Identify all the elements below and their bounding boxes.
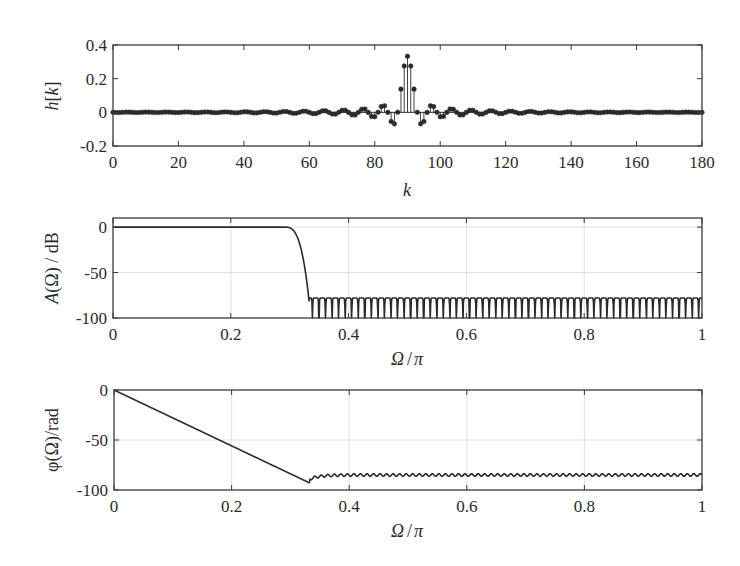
x-tick-label: 0.8 xyxy=(574,325,595,344)
x-tick-label: 0.2 xyxy=(220,325,241,344)
x-tick-label: 0 xyxy=(109,153,118,172)
x-tick-label: 0.6 xyxy=(456,497,477,516)
x-tick-label: 0.4 xyxy=(339,497,361,516)
x-tick-label: 0.2 xyxy=(221,497,242,516)
x-tick-label: 1 xyxy=(698,497,707,516)
y-axis-label: h[k] xyxy=(42,82,62,111)
y-tick-labels: 0-50-100 xyxy=(76,218,107,328)
y-tick-label: 0 xyxy=(100,381,109,400)
phase-response-panel: 00.20.40.60.81 0-50-100 φ(Ω)/rad Ω/π xyxy=(42,381,706,541)
x-tick-label: 120 xyxy=(493,153,519,172)
stem-marker xyxy=(412,87,417,92)
magnitude-response-panel: 00.20.40.60.81 0-50-100 A(Ω) / dB Ω/π xyxy=(42,218,706,369)
stem-marker xyxy=(405,54,410,59)
x-tick-label: 0 xyxy=(109,325,118,344)
x-axis-label: k xyxy=(403,180,412,200)
x-tick-label: 100 xyxy=(427,153,453,172)
y-axis-label: φ(Ω)/rad xyxy=(42,408,63,472)
y-tick-label: -50 xyxy=(84,264,107,283)
x-tick-label: 20 xyxy=(170,153,187,172)
stem-marker xyxy=(422,119,427,124)
stem-marker xyxy=(392,122,397,127)
stem-marker xyxy=(382,104,387,109)
x-tick-label: 0.6 xyxy=(456,325,477,344)
stem-marker xyxy=(408,64,413,69)
x-tick-label: 1 xyxy=(698,325,707,344)
x-tick-label: 80 xyxy=(366,153,383,172)
x-tick-label: 140 xyxy=(558,153,584,172)
x-axis-label: Ω/π xyxy=(391,521,424,541)
y-axis-label: A(Ω) / dB xyxy=(42,232,63,304)
stem-series xyxy=(111,54,705,126)
y-tick-labels: 0-50-100 xyxy=(77,381,108,500)
x-tick-label: 60 xyxy=(301,153,318,172)
x-axis-label: Ω/π xyxy=(391,349,424,369)
stem-marker xyxy=(431,104,436,109)
x-tick-labels: 00.20.40.60.81 xyxy=(109,325,707,344)
phase-line xyxy=(114,390,702,483)
y-tick-label: -50 xyxy=(85,431,108,450)
x-tick-label: 40 xyxy=(235,153,252,172)
x-tick-label: 0 xyxy=(110,497,119,516)
x-tick-labels: 00.20.40.60.81 xyxy=(110,497,707,516)
stem-marker xyxy=(372,114,377,119)
y-tick-label: 0.2 xyxy=(86,70,107,89)
y-tick-label: -0.2 xyxy=(80,137,107,156)
y-tick-label: -100 xyxy=(77,481,108,500)
x-tick-label: 160 xyxy=(624,153,650,172)
y-tick-label: 0.4 xyxy=(86,36,108,55)
y-tick-labels: 0.40.20-0.2 xyxy=(80,36,107,156)
x-tick-label: 0.4 xyxy=(338,325,360,344)
y-tick-label: 0 xyxy=(99,103,108,122)
stem-marker xyxy=(402,64,407,69)
x-tick-label: 0.8 xyxy=(574,497,595,516)
stem-marker xyxy=(441,114,446,119)
impulse-response-panel: 020406080100120140160180 0.40.20-0.2 h[k… xyxy=(42,36,715,200)
stem-marker xyxy=(399,87,404,92)
y-tick-label: 0 xyxy=(99,218,108,237)
figure: 020406080100120140160180 0.40.20-0.2 h[k… xyxy=(0,0,740,566)
x-tick-label: 180 xyxy=(689,153,715,172)
y-tick-label: -100 xyxy=(76,309,107,328)
x-tick-labels: 020406080100120140160180 xyxy=(109,153,715,172)
